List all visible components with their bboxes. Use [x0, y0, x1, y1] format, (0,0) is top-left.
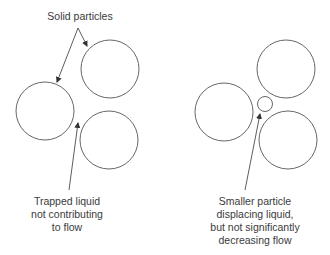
particle-bottom-right [80, 111, 138, 169]
arrow-small-particle [245, 114, 260, 190]
label-line: to flow [17, 221, 117, 234]
particle-left [16, 82, 74, 140]
small-particle [258, 97, 273, 112]
arrow-to-top-particle [78, 28, 87, 46]
label-smaller-particle: Smaller particle displacing liquid, but … [195, 195, 315, 247]
label-line: Smaller particle [195, 195, 315, 208]
particle-bottom-right-2 [259, 111, 317, 169]
label-line: Trapped liquid [17, 195, 117, 208]
label-line: not contributing [17, 208, 117, 221]
label-solid-particles: Solid particles [40, 10, 120, 23]
arrow-to-left-particle [57, 28, 78, 82]
arrow-trapped-liquid [69, 123, 78, 190]
label-line: displacing liquid, [195, 208, 315, 221]
particle-top-right-2 [257, 40, 315, 98]
label-trapped-liquid: Trapped liquid not contributing to flow [17, 195, 117, 234]
particle-top-right [81, 40, 139, 98]
particle-left-2 [195, 83, 253, 141]
label-line: decreasing flow [195, 234, 315, 247]
label-line: but not significantly [195, 221, 315, 234]
